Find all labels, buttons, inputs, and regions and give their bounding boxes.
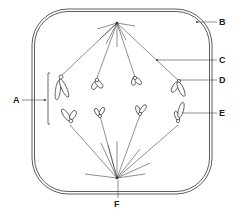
spindle-fibers-upper <box>61 23 179 81</box>
label-d: D <box>219 76 226 85</box>
label-c: C <box>219 56 226 65</box>
chromosomes-lower <box>60 102 186 123</box>
lower-aster <box>85 141 150 178</box>
chromosomes-upper <box>54 75 187 100</box>
label-f: F <box>114 200 120 209</box>
label-e: E <box>219 109 225 118</box>
label-a: A <box>13 96 20 105</box>
spindle-fibers-lower <box>70 115 178 178</box>
bracket-a <box>48 73 50 124</box>
cell-diagram <box>0 0 241 216</box>
cell-membrane-outer <box>32 9 212 194</box>
label-b: B <box>219 18 226 27</box>
